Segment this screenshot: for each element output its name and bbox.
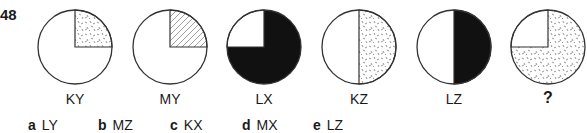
figure-label: LZ (415, 91, 493, 107)
figure-label: KZ (320, 91, 398, 107)
circle-half-black-icon (415, 8, 493, 86)
figure-label: MY (131, 91, 209, 107)
option-b[interactable]: bMZ (98, 117, 133, 133)
figure-lz (415, 8, 493, 86)
option-c[interactable]: cKX (170, 117, 202, 133)
option-letter: c (170, 117, 178, 133)
circle-half-speckle-icon (320, 8, 398, 86)
option-e[interactable]: eLZ (313, 117, 343, 133)
option-letter: b (98, 117, 107, 133)
option-a[interactable]: aLY (28, 117, 58, 133)
circle-three-quarters-speckle-icon (509, 8, 587, 86)
figure-label: LX (225, 91, 303, 107)
question-number: 48 (0, 6, 17, 23)
option-text: LZ (327, 117, 343, 133)
figure-lx (225, 8, 303, 86)
circle-quarter-speckle-icon (36, 8, 114, 86)
option-letter: e (313, 117, 321, 133)
option-letter: a (28, 117, 36, 133)
option-text: MZ (113, 117, 133, 133)
figure-ky (36, 8, 114, 86)
circle-three-quarters-black-icon (225, 8, 303, 86)
option-text: KX (184, 117, 203, 133)
figure-unknown (509, 8, 587, 86)
option-text: LY (42, 117, 58, 133)
figure-kz (320, 8, 398, 86)
circle-quarter-hatch-icon (131, 8, 209, 86)
figure-label: KY (36, 91, 114, 107)
option-letter: d (242, 117, 251, 133)
figure-label-question-mark: ? (509, 89, 587, 107)
figure-my (131, 8, 209, 86)
option-d[interactable]: dMX (242, 117, 278, 133)
option-text: MX (257, 117, 278, 133)
